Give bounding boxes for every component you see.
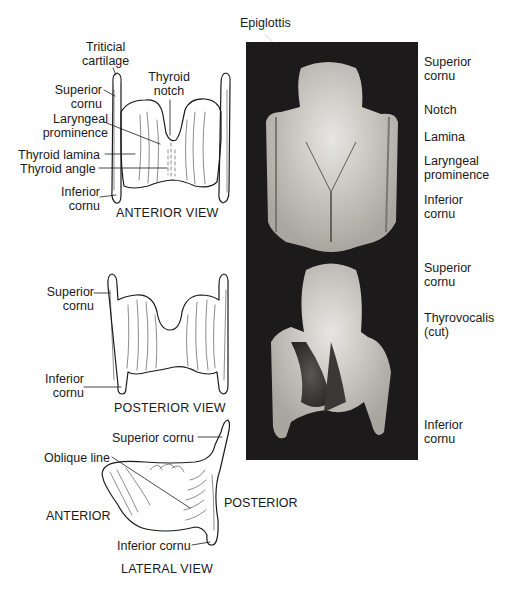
label-anterior-inferior-cornu: Inferior cornu: [50, 185, 100, 213]
label-laryngeal-prominence: Laryngeal prominence: [38, 112, 108, 140]
label-photo-superior-cornu: Superior cornu: [424, 55, 471, 83]
label-posterior: POSTERIOR: [224, 496, 298, 510]
label-oblique-line: Oblique line: [44, 451, 110, 465]
label-thyroid-notch: Thyroid notch: [143, 70, 195, 98]
specimen-photo-panel: [246, 42, 418, 460]
label-lateral-superior-cornu: Superior cornu: [112, 431, 194, 445]
label-notch: Notch: [424, 103, 457, 117]
label-photo-laryngeal-prominence: Laryngeal prominence: [424, 154, 489, 182]
label-lateral-inferior-cornu: Inferior cornu: [117, 539, 191, 553]
posterior-view-title: POSTERIOR VIEW: [114, 401, 226, 415]
label-photo2-inferior-cornu: Inferior cornu: [424, 418, 463, 446]
label-anterior-superior-cornu: Superior cornu: [50, 83, 102, 111]
anterior-view-title: ANTERIOR VIEW: [116, 206, 219, 220]
label-epiglottis: Epiglottis: [240, 16, 291, 30]
label-thyrovocalis: Thyrovocalis (cut): [424, 311, 494, 339]
posterior-view-drawing: [108, 274, 228, 394]
label-triticial-cartilage: Triticial cartilage: [82, 40, 129, 68]
specimen-photo: [246, 42, 418, 460]
label-posterior-inferior-cornu: Inferior cornu: [40, 372, 84, 400]
label-photo-inferior-cornu: Inferior cornu: [424, 193, 463, 221]
label-thyroid-angle: Thyroid angle: [20, 162, 96, 176]
lateral-view-title: LATERAL VIEW: [121, 562, 213, 576]
label-posterior-superior-cornu: Superior cornu: [40, 285, 94, 313]
label-lamina: Lamina: [424, 130, 465, 144]
label-anterior: ANTERIOR: [46, 509, 111, 523]
label-thyroid-lamina: Thyroid lamina: [18, 148, 100, 162]
label-photo2-superior-cornu: Superior cornu: [424, 261, 471, 289]
